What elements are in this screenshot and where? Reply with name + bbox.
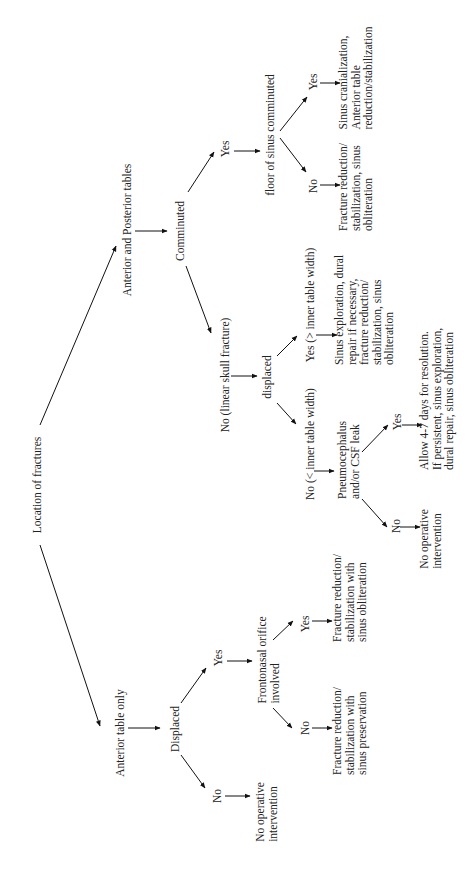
node-label: Allow 4-7 days for resolution. If persis… [418, 328, 456, 470]
node-label: Yes (> inner table width) [304, 248, 317, 363]
edge-displaced-to-yes-left [181, 668, 206, 703]
edge-displaced-to-no [277, 403, 296, 424]
edge-comm-to-yes [188, 152, 214, 192]
node-label: No operative intervention [418, 509, 443, 569]
edge-floor-to-yes [280, 97, 307, 131]
node-label: Anterior table only [114, 689, 127, 777]
node-label: floor of sinus comminuted [264, 74, 277, 196]
node-label: Yes [299, 616, 312, 633]
node-label: Yes [391, 414, 404, 431]
edge-pneumo-to-no [362, 499, 387, 527]
node-label: No [211, 789, 224, 803]
node-label: displaced [261, 355, 274, 398]
node-label: Comminuted [174, 201, 187, 261]
node-label: Displaced [169, 706, 182, 752]
node-label: Yes [212, 650, 225, 667]
node-label: Anterior and Posterior tables [121, 164, 134, 297]
edge-displaced-to-yes [277, 336, 297, 356]
node-label: No operative intervention [254, 782, 279, 842]
node-label: No [390, 519, 403, 533]
edge-fn-to-no [273, 708, 292, 728]
node-label: Location of fractures [31, 437, 44, 533]
node-label: Fracture reduction/ stabilization with s… [331, 554, 369, 642]
edge-pneumo-to-yes [362, 425, 388, 452]
node-label: Fracture reduction/ stabilization with s… [331, 687, 369, 775]
node-label: Sinus exploration, dural repair if neces… [333, 255, 396, 365]
node-label: Sinus cranialization, Anterior table red… [337, 27, 375, 130]
node-label: Fracture reduction/ stabilization, sinus… [337, 143, 375, 231]
edge-displaced-to-no-left [181, 755, 205, 788]
node-label: No [299, 721, 312, 735]
node-label: Yes [307, 74, 320, 91]
edge-root-to-ap [40, 246, 116, 425]
edge-comm-to-no [186, 266, 211, 333]
diagram-edges [0, 0, 470, 881]
node-label: Yes [219, 141, 232, 158]
node-label: Pneumocephalus and/or CSF leak [336, 421, 361, 499]
edge-root-to-ant [40, 545, 100, 726]
node-label: Frontonasal orifice involved [256, 616, 281, 703]
node-label: No (linear skull fracture) [219, 318, 232, 433]
node-label: No [307, 179, 320, 193]
edge-floor-to-no [280, 138, 306, 172]
node-label: No (< inner table width) [304, 388, 317, 500]
